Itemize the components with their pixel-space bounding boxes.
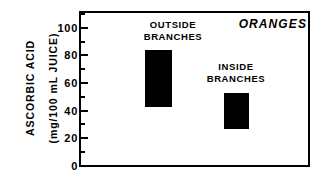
y-tick-label-80: 80 [38, 49, 78, 61]
series-label-outside-line-2: BRANCHES [118, 31, 228, 43]
series-label-outside-line-1: OUTSIDE [118, 19, 228, 31]
y-tick-label-40: 40 [38, 105, 78, 117]
series-label-inside-line-1: INSIDE [181, 61, 291, 73]
y-tick-label-20: 20 [38, 132, 78, 144]
series-label-inside-branches: INSIDE BRANCHES [181, 61, 291, 85]
y-tick-label-60: 60 [38, 77, 78, 89]
y-axis-title-line-1: ASCORBIC ACID [24, 13, 36, 163]
chart-title: ORANGES [239, 17, 307, 31]
y-tick-label-100: 100 [38, 22, 78, 34]
series-label-inside-line-2: BRANCHES [181, 73, 291, 85]
y-axis-tick-labels: 100 80 60 40 20 0 [36, 0, 78, 184]
chart-figure: ASCORBIC ACID (mg/100 mL JUICE) 100 80 6… [0, 0, 324, 184]
bar-outside-branches [145, 50, 172, 107]
y-tick-label-0: 0 [38, 160, 78, 172]
series-label-outside-branches: OUTSIDE BRANCHES [118, 19, 228, 43]
bar-inside-branches [224, 93, 249, 129]
